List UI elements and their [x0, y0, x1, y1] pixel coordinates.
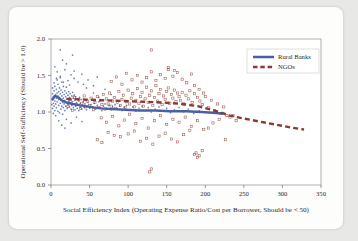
data-point [73, 94, 75, 96]
data-point [66, 92, 68, 94]
data-point [61, 81, 63, 83]
x-tick-label: 350 [316, 190, 327, 197]
data-point [193, 113, 195, 115]
data-point [62, 107, 64, 109]
x-tick-label: 200 [200, 190, 211, 197]
data-point [54, 110, 56, 112]
data-point [59, 102, 61, 104]
x-axis-title: Social Efficiency Index (Operating Expen… [63, 206, 310, 214]
data-point [147, 107, 149, 109]
data-point [52, 93, 54, 95]
data-point [65, 105, 67, 107]
data-point [53, 105, 55, 107]
data-point [69, 93, 71, 95]
x-tick-label: 250 [239, 190, 250, 197]
data-point [57, 110, 59, 112]
legend-label-rural-banks: Rural Banks [278, 53, 311, 60]
legend-label-ngos: NGOs [278, 63, 295, 70]
data-point [187, 108, 189, 110]
data-point [84, 103, 86, 105]
data-point [65, 96, 67, 98]
data-point [70, 74, 72, 76]
data-point [104, 103, 106, 105]
data-point [66, 86, 68, 88]
data-point [59, 49, 61, 51]
data-point [52, 87, 54, 89]
data-point [54, 86, 56, 88]
data-point [59, 75, 61, 77]
y-axis-tick-labels: 0.00.51.01.52.0 [37, 35, 46, 188]
data-point [77, 81, 79, 83]
data-point [72, 101, 74, 103]
data-point [56, 78, 58, 80]
data-point [62, 59, 64, 61]
data-point [73, 107, 75, 109]
x-tick-label: 100 [123, 190, 134, 197]
data-point [93, 85, 95, 87]
data-point [62, 113, 64, 115]
x-tick-label: 150 [162, 190, 173, 197]
y-tick-label: 2.0 [37, 35, 46, 42]
data-point [76, 108, 78, 110]
data-point [59, 77, 61, 79]
data-point [79, 97, 81, 99]
x-axis-tick-labels: 050100150200250300350 [49, 190, 326, 197]
data-point [53, 90, 55, 92]
data-point [53, 82, 55, 84]
y-axis-title: Operational Self-Sufficiency (Should be … [19, 45, 27, 179]
y-tick-label: 1.5 [37, 72, 46, 79]
y-tick-label: 0.0 [37, 181, 46, 188]
data-point [56, 101, 58, 103]
data-point [64, 90, 66, 92]
data-point [76, 102, 78, 104]
data-point [158, 106, 160, 108]
data-point [58, 105, 60, 107]
scatter-chart: 050100150200250300350 0.00.51.01.52.0 So… [9, 7, 343, 229]
data-point [59, 93, 61, 95]
data-point [66, 118, 68, 120]
data-point [61, 124, 63, 126]
data-point [64, 110, 66, 112]
data-point [138, 108, 140, 110]
data-point [73, 78, 75, 80]
data-point [55, 115, 57, 117]
data-point [63, 94, 65, 96]
data-point [126, 105, 128, 107]
data-point [104, 89, 106, 91]
data-point [54, 66, 56, 68]
data-point [67, 80, 69, 82]
data-point [62, 97, 64, 99]
data-point [62, 91, 64, 93]
data-point [59, 87, 61, 89]
data-point [56, 79, 58, 81]
data-point [67, 94, 69, 96]
data-point [70, 122, 72, 124]
data-point [52, 102, 54, 104]
data-point [66, 63, 68, 65]
data-point [58, 120, 60, 122]
data-point [61, 105, 63, 107]
data-point [56, 92, 58, 94]
y-tick-label: 1.0 [37, 108, 46, 115]
x-tick-label: 50 [86, 190, 93, 197]
data-point [56, 71, 58, 73]
data-point [76, 116, 78, 118]
data-point [83, 83, 85, 85]
chart-legend: Rural Banks NGOs [247, 49, 319, 73]
data-point [58, 91, 60, 93]
data-point [81, 121, 83, 123]
y-tick-label: 0.5 [37, 145, 46, 152]
data-point [69, 84, 71, 86]
data-point [72, 54, 74, 56]
data-point [60, 89, 62, 91]
data-point [62, 86, 64, 88]
data-point [68, 91, 70, 93]
data-point [56, 107, 58, 109]
data-point [64, 127, 66, 129]
data-point [93, 92, 95, 94]
data-point [114, 104, 116, 106]
data-point [96, 76, 98, 78]
data-point [166, 108, 168, 110]
x-tick-label: 300 [277, 190, 288, 197]
data-point [52, 108, 54, 110]
